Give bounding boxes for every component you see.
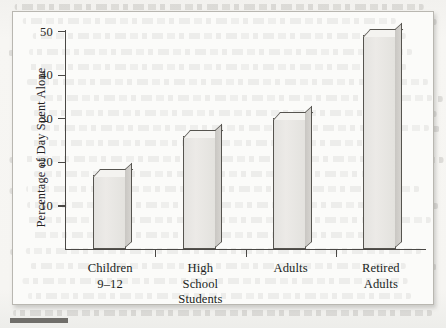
y-tick-50: 50 xyxy=(58,31,65,32)
x-tick xyxy=(155,250,156,257)
page-edge-mark xyxy=(10,318,68,323)
category-label-line: School xyxy=(145,277,255,293)
y-tick-label: 30 xyxy=(40,111,53,126)
y-tick-30: 30 xyxy=(58,118,65,119)
bar-side-face xyxy=(395,23,402,248)
bar-side-face xyxy=(305,106,312,248)
bar-3 xyxy=(273,118,306,249)
y-axis-line xyxy=(65,30,66,250)
category-label-4: RetiredAdults xyxy=(326,261,434,292)
bar-side-face xyxy=(125,163,132,248)
plot-area: Percentage of Day Spent Alone 1020304050… xyxy=(13,12,433,304)
bar-4 xyxy=(363,35,396,249)
showthrough-line xyxy=(15,4,424,10)
category-label-line: Adults xyxy=(326,277,434,293)
y-tick-20: 20 xyxy=(58,162,65,163)
bar-2 xyxy=(183,136,216,249)
showthrough-line xyxy=(13,310,432,316)
y-tick-label: 10 xyxy=(40,198,53,213)
x-tick xyxy=(336,250,337,257)
category-label-line: Students xyxy=(145,292,255,305)
bar-1 xyxy=(93,175,126,249)
y-tick-label: 50 xyxy=(40,24,53,39)
bar-side-face xyxy=(215,123,222,248)
y-tick-40: 40 xyxy=(58,75,65,76)
category-label-line: Retired xyxy=(326,261,434,277)
x-tick xyxy=(246,250,247,257)
y-tick-label: 20 xyxy=(40,155,53,170)
figure-root: Percentage of Day Spent Alone 1020304050… xyxy=(0,0,446,328)
figure-frame: Percentage of Day Spent Alone 1020304050… xyxy=(12,11,434,305)
y-tick-10: 10 xyxy=(58,205,65,206)
y-tick-label: 40 xyxy=(40,68,53,83)
